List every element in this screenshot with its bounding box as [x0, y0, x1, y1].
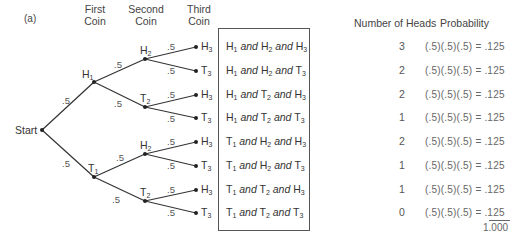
heads-count: 2 [395, 135, 409, 147]
outcome-coin3: H [293, 183, 301, 195]
start-label: Start [15, 124, 37, 136]
probability-total: 1.000 [483, 222, 508, 233]
branch-prob: .5 [167, 41, 175, 52]
conjunction: and [239, 135, 257, 147]
branch-prob: .5 [167, 207, 175, 218]
probability-value: (.5)(.5)(.5) = .125 [425, 184, 505, 195]
node-subscript: 2 [148, 145, 152, 152]
heads-count: 0 [395, 206, 409, 218]
branch-prob: .5 [167, 65, 175, 76]
outcome-row: T1 and T2 and T3 [226, 206, 303, 219]
node-first-h: H1 [82, 68, 94, 81]
conjunction: and [274, 135, 292, 147]
node-subscript: 2 [148, 50, 152, 57]
node-third-h: H3 [201, 135, 213, 148]
node-subscript: 3 [209, 189, 213, 196]
node-subscript: 3 [207, 117, 211, 124]
node-letter: H [201, 183, 209, 195]
branch-prob: .5 [167, 136, 175, 147]
node-subscript: 3 [207, 165, 211, 172]
conjunction: and [240, 111, 258, 123]
node-third-h: H3 [201, 40, 213, 53]
outcome-row: H1 and H2 and H3 [226, 40, 307, 53]
branch-prob: .5 [62, 95, 70, 106]
node-letter: H [140, 139, 148, 151]
conjunction: and [274, 111, 292, 123]
heads-count: 1 [395, 183, 409, 195]
heads-count: 1 [395, 159, 409, 171]
branch-prob: .5 [167, 113, 175, 124]
conjunction: and [239, 159, 257, 171]
branch-prob: .5 [112, 194, 120, 205]
heads-count: 2 [395, 88, 409, 100]
branch-prob: .5 [114, 59, 122, 70]
conjunction: and [239, 206, 257, 218]
conjunction: and [240, 88, 258, 100]
conjunction: and [239, 183, 257, 195]
heads-count: 3 [395, 40, 409, 52]
outcome-coin1: H [226, 40, 234, 52]
node-second-h: H2 [140, 44, 152, 57]
node-subscript: 1 [94, 168, 98, 175]
node-third-t: T3 [201, 159, 211, 172]
outcome-coin1: H [226, 64, 234, 76]
conjunction: and [273, 183, 291, 195]
node-subscript: 2 [146, 192, 150, 199]
conjunction: and [274, 88, 292, 100]
branch-prob: .5 [116, 152, 124, 163]
probability-value: (.5)(.5)(.5) = .125 [425, 89, 505, 100]
branch-prob: .5 [167, 160, 175, 171]
outcome-coin1: H [226, 111, 234, 123]
node-subscript: 3 [209, 46, 213, 53]
node-second-h: H2 [140, 139, 152, 152]
node-second-t: T2 [140, 92, 150, 105]
node-subscript: 2 [146, 98, 150, 105]
conjunction: and [275, 64, 293, 76]
node-second-t: T2 [140, 186, 150, 199]
probability-value: (.5)(.5)(.5) = .125 [425, 136, 505, 147]
node-third-t: T3 [201, 206, 211, 219]
node-subscript: 3 [207, 70, 211, 77]
outcome-row: T1 and H2 and H3 [226, 135, 306, 148]
probability-value: (.5)(.5)(.5) = .125 [425, 65, 505, 76]
node-subscript: 3 [209, 141, 213, 148]
conjunction: and [274, 159, 292, 171]
heads-count: 1 [395, 111, 409, 123]
node-third-h: H3 [201, 183, 213, 196]
node-first-t: T1 [88, 162, 98, 175]
node-third-t: T3 [201, 111, 211, 124]
node-subscript: 3 [209, 94, 213, 101]
heads-count: 2 [395, 64, 409, 76]
branch-prob: .5 [167, 89, 175, 100]
conjunction: and [275, 40, 293, 52]
conjunction: and [240, 40, 258, 52]
sum-rule-line [489, 220, 510, 221]
outcome-row: T1 and T2 and H3 [226, 183, 305, 196]
node-subscript: 1 [90, 74, 94, 81]
node-letter: H [201, 135, 209, 147]
node-third-h: H3 [201, 88, 213, 101]
conjunction: and [273, 206, 291, 218]
outcome-coin1: H [226, 88, 234, 100]
branch-prob: .5 [167, 184, 175, 195]
outcomes-box [218, 28, 310, 231]
outcome-row: H1 and T2 and T3 [226, 111, 305, 124]
node-third-t: T3 [201, 64, 211, 77]
probability-value: (.5)(.5)(.5) = .125 [425, 207, 505, 218]
node-letter: H [201, 40, 209, 52]
outcome-coin3: H [294, 88, 302, 100]
probability-value: (.5)(.5)(.5) = .125 [425, 112, 505, 123]
conjunction: and [240, 64, 258, 76]
outcome-row: H1 and T2 and H3 [226, 88, 306, 101]
node-letter: H [201, 88, 209, 100]
probability-value: (.5)(.5)(.5) = .125 [425, 160, 505, 171]
node-letter: H [140, 44, 148, 56]
probability-value: (.5)(.5)(.5) = .125 [425, 41, 505, 52]
branch-prob: .5 [114, 98, 122, 109]
outcome-row: H1 and H2 and T3 [226, 64, 306, 77]
node-letter: H [82, 68, 90, 80]
outcome-row: T1 and H2 and T3 [226, 159, 305, 172]
branch-prob: .5 [62, 158, 70, 169]
node-subscript: 3 [207, 212, 211, 219]
